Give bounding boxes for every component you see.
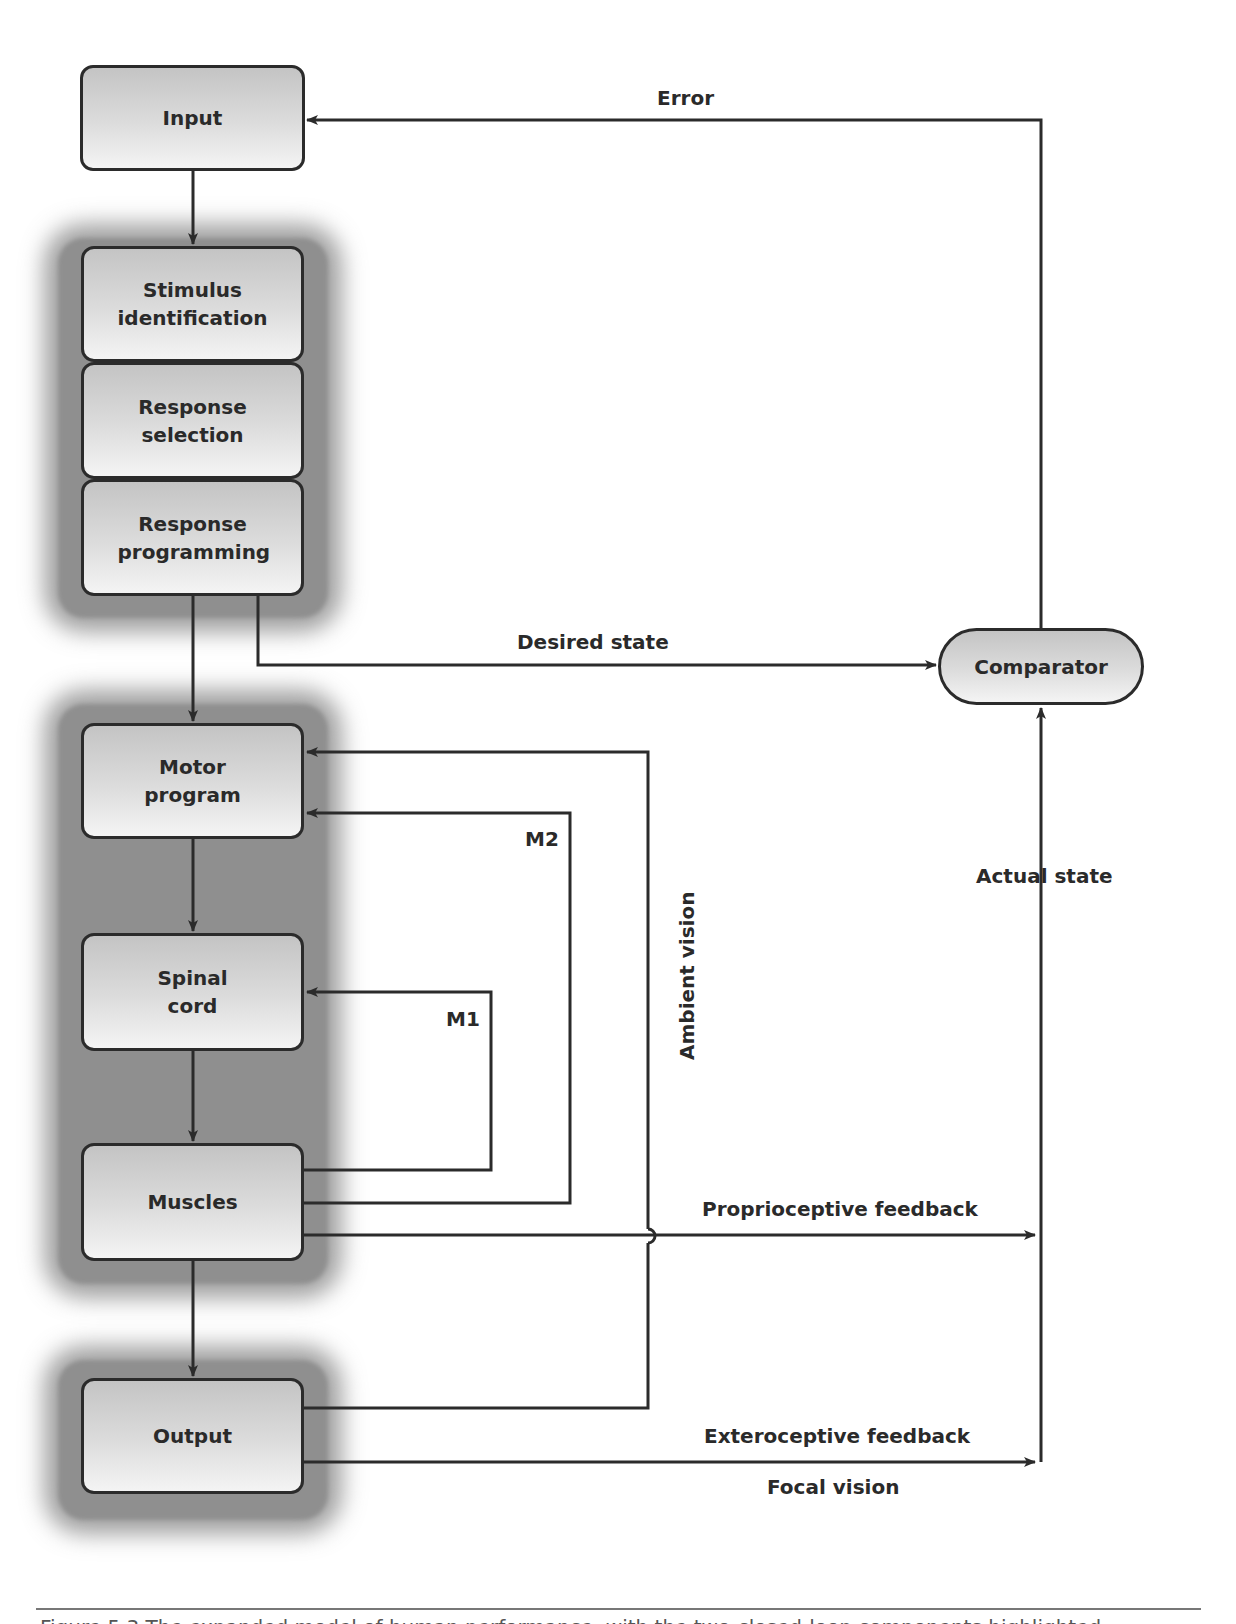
node-comparator: Comparator	[938, 628, 1144, 705]
label-focal-vision: Focal vision	[767, 1475, 899, 1499]
node-spinal-cord: Spinal cord	[81, 933, 304, 1051]
node-response-programming-label: Response programming	[118, 510, 268, 566]
node-response-selection: Response selection	[81, 362, 304, 479]
label-error: Error	[657, 86, 714, 110]
node-motor-program-label: Motor program	[138, 753, 248, 809]
label-exteroceptive-feedback: Exteroceptive feedback	[704, 1424, 970, 1448]
node-stimulus-identification: Stimulus identification	[81, 246, 304, 362]
node-output-label: Output	[153, 1422, 232, 1450]
node-motor-program: Motor program	[81, 723, 304, 839]
label-actual-state: Actual state	[976, 864, 1113, 888]
node-response-programming: Response programming	[81, 479, 304, 596]
caption-divider	[36, 1608, 1201, 1610]
node-comparator-label: Comparator	[974, 653, 1108, 681]
node-muscles: Muscles	[81, 1143, 304, 1261]
node-input: Input	[80, 65, 305, 171]
node-response-selection-label: Response selection	[133, 393, 253, 449]
node-input-label: Input	[163, 104, 223, 132]
node-output: Output	[81, 1378, 304, 1494]
label-ambient-vision: Ambient vision	[675, 920, 699, 1060]
arrow-m2	[304, 813, 570, 1203]
arrow-error	[307, 120, 1041, 628]
label-desired-state: Desired state	[517, 630, 669, 654]
label-m2: M2	[525, 827, 559, 851]
node-spinal-cord-label: Spinal cord	[153, 964, 233, 1020]
node-stimulus-identification-label: Stimulus identification	[113, 276, 273, 332]
figure-caption: Figure 5.3 The expanded model of human p…	[40, 1614, 1108, 1624]
label-m1: M1	[446, 1007, 480, 1031]
node-muscles-label: Muscles	[147, 1188, 237, 1216]
label-proprioceptive-feedback: Proprioceptive feedback	[702, 1197, 978, 1221]
arrow-ambient-vision	[304, 1243, 648, 1408]
